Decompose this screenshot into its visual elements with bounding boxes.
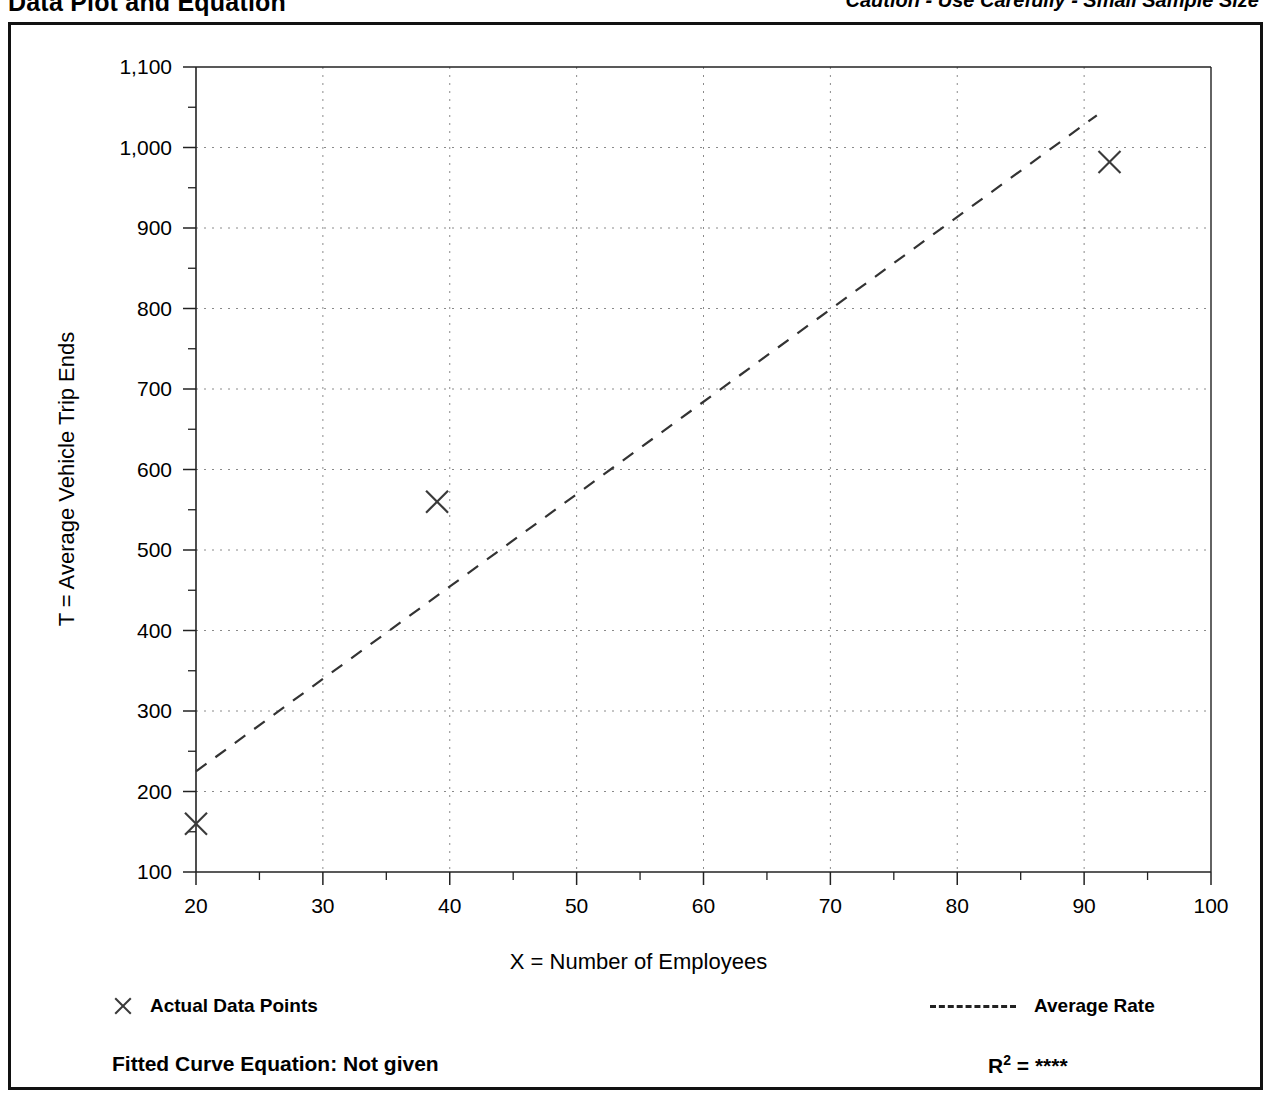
y-axis-tick-label: 1,100 (60, 55, 172, 79)
x-axis-tick-label: 30 (311, 894, 334, 918)
legend-item-actual-data-points: Actual Data Points (112, 995, 318, 1017)
r-squared-exponent: 2 (1003, 1052, 1011, 1068)
x-axis-tick-label: 100 (1193, 894, 1228, 918)
fitted-curve-equation: Fitted Curve Equation: Not given (112, 1052, 439, 1076)
r-squared-value: R2 = **** (988, 1052, 1068, 1078)
x-axis-tick-label: 50 (565, 894, 588, 918)
chart-plot-area: 1002003004005006007008009001,0001,100 20… (0, 0, 1277, 1105)
x-axis-title: X = Number of Employees (0, 949, 1277, 975)
data-point-marker (426, 491, 448, 513)
x-axis-tick-label: 70 (819, 894, 842, 918)
r-squared-equals: = (1011, 1054, 1035, 1077)
y-axis-tick-label: 100 (60, 860, 172, 884)
r-squared-base: R (988, 1054, 1003, 1077)
x-marker-icon (112, 995, 134, 1017)
r-squared-stars: **** (1035, 1054, 1068, 1077)
axis-ticks (183, 67, 1211, 885)
x-axis-tick-label: 80 (946, 894, 969, 918)
x-axis-tick-label: 60 (692, 894, 715, 918)
data-series (185, 115, 1121, 834)
x-axis-tick-label: 20 (184, 894, 207, 918)
data-point-marker (1099, 151, 1121, 173)
legend-item-average-rate: Average Rate (930, 995, 1155, 1017)
chart-legend: Actual Data Points Average Rate (0, 995, 1277, 1029)
chart-svg (0, 0, 1277, 1105)
x-axis-tick-label: 40 (438, 894, 461, 918)
x-axis-tick-label: 90 (1072, 894, 1095, 918)
legend-label-average-rate: Average Rate (1034, 995, 1155, 1017)
dashed-line-icon (930, 1005, 1016, 1008)
y-axis-title: T = Average Vehicle Trip Ends (54, 129, 80, 829)
gridlines (196, 67, 1211, 872)
equation-row: Fitted Curve Equation: Not given R2 = **… (0, 1052, 1277, 1090)
legend-label-actual-data-points: Actual Data Points (150, 995, 318, 1017)
